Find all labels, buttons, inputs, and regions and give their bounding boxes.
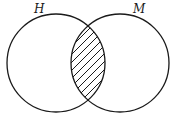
hatch-line	[60, 0, 120, 58]
venn-diagram: H M	[0, 0, 175, 118]
set-m-circle	[71, 14, 169, 112]
intersection-hatch	[60, 0, 120, 118]
set-h-circle	[7, 14, 105, 112]
hatch-line	[60, 38, 120, 98]
set-m-label: M	[132, 2, 146, 16]
hatch-line	[60, 22, 120, 82]
set-h-label: H	[33, 2, 45, 16]
hatch-line	[60, 54, 120, 114]
hatch-line	[60, 46, 120, 106]
hatch-line	[60, 14, 120, 74]
hatch-line	[60, 30, 120, 90]
